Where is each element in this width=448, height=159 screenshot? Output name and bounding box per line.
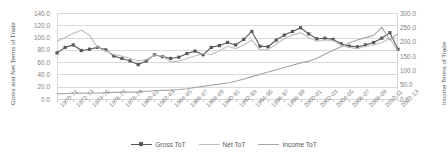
data-point-marker (315, 37, 318, 40)
data-point-marker (242, 38, 245, 41)
x-tick-mark (301, 100, 302, 102)
data-point-marker (291, 30, 294, 33)
data-point-marker (88, 48, 91, 51)
chart-legend: Gross ToTNet ToTIncome ToT (0, 137, 448, 151)
x-tick-mark (57, 100, 58, 102)
data-point-marker (380, 37, 383, 40)
data-point-marker (64, 46, 67, 49)
data-point-marker (299, 26, 302, 29)
series-lines (57, 13, 398, 99)
x-axis-labels: 1970-711972-731974-751976-771978-791980-… (57, 100, 398, 134)
y-tick-left: 20.0 (24, 83, 50, 90)
data-point-marker (169, 57, 172, 60)
data-point-marker (372, 41, 375, 44)
y-tick-left: 100.0 (24, 34, 50, 41)
data-point-marker (218, 44, 221, 47)
data-point-marker (193, 49, 196, 52)
data-point-marker (177, 56, 180, 59)
y-tick-left: 0.0 (24, 96, 50, 103)
y-tick-right: 100.0 (400, 67, 426, 74)
data-point-marker (266, 45, 269, 48)
y-tick-left: 120.0 (24, 22, 50, 29)
x-tick-mark (382, 100, 383, 102)
legend-label: Gross ToT (155, 141, 185, 148)
y-tick-left: 140.0 (24, 10, 50, 17)
y-axis-right-title: Income Terms of Trade (440, 42, 447, 105)
legend-item[interactable]: Income ToT (258, 141, 316, 148)
data-point-marker (226, 41, 229, 44)
x-tick-mark (284, 100, 285, 102)
x-tick-mark (219, 100, 220, 102)
x-tick-mark (89, 100, 90, 102)
data-point-marker (307, 32, 310, 35)
y-tick-right: 200.0 (400, 38, 426, 45)
data-point-marker (210, 46, 213, 49)
data-point-marker (250, 30, 253, 33)
data-point-marker (55, 51, 58, 54)
x-tick-mark (122, 100, 123, 102)
x-tick-mark (106, 100, 107, 102)
y-tick-left: 60.0 (24, 59, 50, 66)
data-point-marker (388, 31, 391, 34)
y-tick-left: 40.0 (24, 71, 50, 78)
legend-swatch (131, 141, 152, 148)
x-tick-mark (333, 100, 334, 102)
x-tick-mark (203, 100, 204, 102)
x-tick-mark (398, 100, 399, 102)
data-point-marker (80, 49, 83, 52)
series-line-income-tot (57, 27, 398, 94)
y-tick-right: 250.0 (400, 24, 426, 31)
x-tick-mark (73, 100, 74, 102)
y-tick-right: 50.0 (400, 81, 426, 88)
data-point-marker (72, 43, 75, 46)
data-point-marker (283, 34, 286, 37)
x-tick-mark (366, 100, 367, 102)
chart-container: Gross and Net Terms of Trade Income Term… (0, 0, 448, 159)
data-point-marker (185, 52, 188, 55)
y-tick-left: 80.0 (24, 46, 50, 53)
data-point-marker (234, 43, 237, 46)
x-tick-mark (349, 100, 350, 102)
x-tick-mark (154, 100, 155, 102)
data-point-marker (258, 45, 261, 48)
y-tick-right: 300.0 (400, 10, 426, 17)
x-tick-mark (268, 100, 269, 102)
x-tick-mark (187, 100, 188, 102)
data-point-marker (323, 37, 326, 40)
legend-item[interactable]: Net ToT (199, 141, 246, 148)
data-point-marker (137, 63, 140, 66)
legend-item[interactable]: Gross ToT (131, 141, 185, 148)
series-line-net-tot (57, 30, 398, 62)
x-tick-mark (236, 100, 237, 102)
data-point-marker (120, 57, 123, 60)
y-axis-left-title: Gross and Net Terms of Trade (9, 22, 16, 105)
x-tick-mark (252, 100, 253, 102)
x-tick-mark (317, 100, 318, 102)
data-point-marker (128, 59, 131, 62)
plot-area (57, 13, 398, 99)
x-tick-mark (171, 100, 172, 102)
x-tick-mark (138, 100, 139, 102)
y-tick-right: 150.0 (400, 53, 426, 60)
legend-swatch (199, 141, 220, 148)
legend-label: Net ToT (223, 141, 246, 148)
legend-swatch (258, 141, 279, 148)
legend-label: Income ToT (282, 141, 316, 148)
data-point-marker (275, 38, 278, 41)
